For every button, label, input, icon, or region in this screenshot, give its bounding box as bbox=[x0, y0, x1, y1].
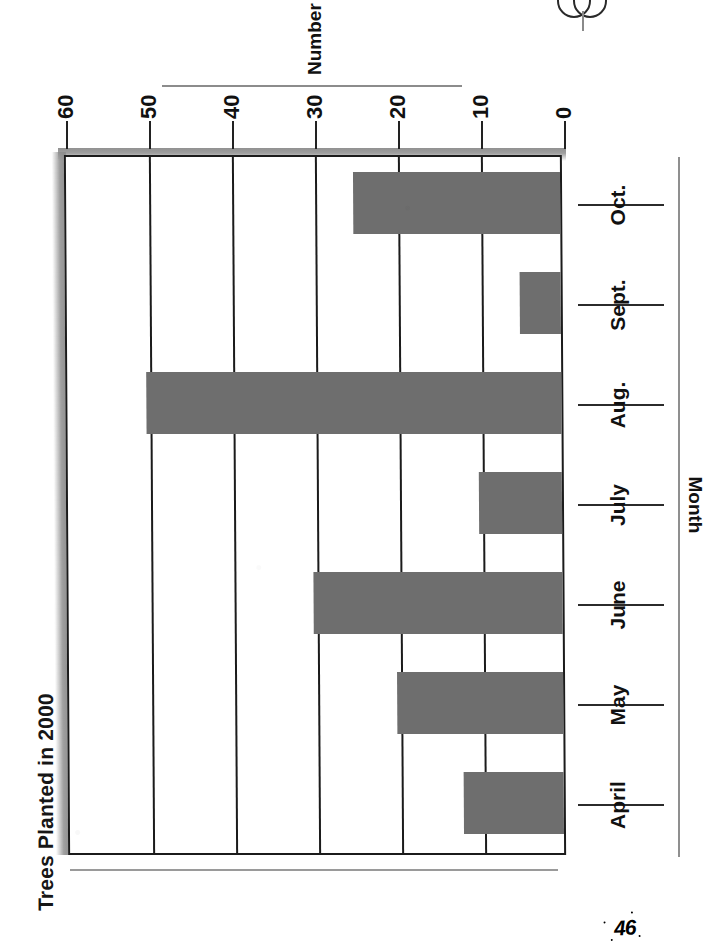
value-tick-label: 30 bbox=[302, 95, 328, 119]
gridline bbox=[148, 157, 154, 853]
category-axis-rule bbox=[678, 157, 680, 857]
category-tick-label: Sept. bbox=[606, 279, 630, 330]
value-tick-label: 40 bbox=[219, 95, 245, 119]
value-tick-label: 50 bbox=[136, 95, 162, 119]
category-tick-label: July bbox=[606, 484, 630, 526]
title-rule bbox=[70, 869, 558, 871]
category-tick-label: April bbox=[606, 781, 630, 829]
value-tick-label: 10 bbox=[468, 95, 494, 119]
bar-july bbox=[478, 472, 561, 534]
scan-specks bbox=[606, 909, 642, 946]
gridline bbox=[397, 157, 403, 853]
value-axis-title: Number Planted bbox=[304, 0, 326, 75]
chart-rotation-wrapper: Trees Planted in 2000 Number Planted 010… bbox=[14, 17, 614, 917]
page-number: 46 bbox=[613, 915, 636, 940]
value-tick bbox=[149, 121, 151, 149]
value-axis-rule bbox=[162, 85, 462, 87]
value-tick-label: 60 bbox=[53, 95, 79, 119]
value-tick bbox=[398, 121, 400, 149]
category-tick-label: Aug. bbox=[606, 382, 630, 429]
bar-april bbox=[464, 772, 564, 834]
plot-area bbox=[63, 155, 565, 855]
value-tick-label: 0 bbox=[551, 107, 577, 119]
bar-june bbox=[313, 572, 562, 634]
category-axis: Month AprilMayJuneJulyAug.Sept.Oct. bbox=[574, 155, 707, 855]
category-tick-label: June bbox=[606, 580, 630, 629]
gridline bbox=[314, 157, 320, 853]
value-tick bbox=[481, 121, 483, 149]
category-tick-label: Oct. bbox=[606, 185, 630, 226]
bar-may bbox=[397, 672, 563, 734]
gridline bbox=[231, 157, 237, 853]
value-axis: Number Planted 0102030405060 bbox=[66, 29, 564, 149]
bar-aug bbox=[146, 372, 561, 434]
category-axis-title: Month bbox=[684, 477, 706, 534]
category-tick-label: May bbox=[606, 685, 630, 726]
value-tick-label: 20 bbox=[385, 95, 411, 119]
value-tick bbox=[315, 121, 317, 149]
bar-oct bbox=[352, 172, 560, 234]
value-tick bbox=[232, 121, 234, 149]
bar-chart: Trees Planted in 2000 Number Planted 010… bbox=[14, 17, 614, 917]
value-tick bbox=[564, 121, 566, 149]
bar-sept bbox=[519, 272, 561, 334]
value-tick bbox=[66, 121, 68, 149]
